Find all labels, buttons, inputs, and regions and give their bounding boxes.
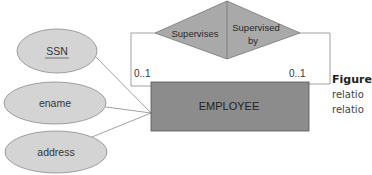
relationship-supervises[interactable]: Supervises Supervised by xyxy=(155,1,300,59)
role-label-supervised-by-line2: by xyxy=(248,35,258,46)
attribute-label-address: address xyxy=(37,146,74,158)
attribute-ssn[interactable]: SSN xyxy=(17,29,97,73)
role-label-supervises: Supervises xyxy=(172,28,219,39)
role-label-supervised-by-line1: Supervised xyxy=(232,22,280,33)
attribute-ename[interactable]: ename xyxy=(4,82,106,124)
attribute-label-ename: ename xyxy=(39,97,71,109)
cardinality-right: 0..1 xyxy=(289,68,306,79)
connector-address xyxy=(92,113,151,137)
connector-ename xyxy=(106,107,151,113)
attribute-address[interactable]: address xyxy=(5,131,107,173)
caption-line-2: relatio xyxy=(332,104,372,119)
caption-title: Figure xyxy=(332,73,372,89)
entity-label: EMPLOYEE xyxy=(199,100,260,112)
entity-employee[interactable]: EMPLOYEE xyxy=(151,82,309,131)
attribute-label-ssn: SSN xyxy=(46,45,68,57)
er-diagram: SSN ename address Supervises Supervised … xyxy=(0,0,372,175)
figure-caption: Figure relatio relatio xyxy=(332,73,372,119)
cardinality-left: 0..1 xyxy=(134,68,151,79)
caption-line-1: relatio xyxy=(332,89,372,104)
